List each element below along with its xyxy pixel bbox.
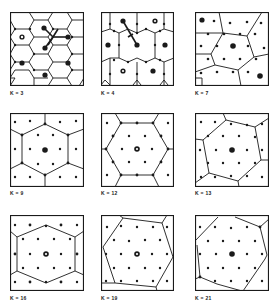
- hexagonal-cell-diagram-k12: [101, 113, 174, 187]
- hexagonal-cell-diagram-k4: [101, 12, 174, 86]
- hexagonal-cell-diagram-k13: [195, 113, 269, 187]
- hexagonal-cell-diagram-k9: [10, 113, 84, 187]
- panel-label: K = 9: [10, 190, 24, 196]
- panel-label: K = 13: [195, 190, 212, 196]
- panel-label: K = 3: [10, 90, 24, 96]
- hexagonal-cell-diagram-k16: [10, 215, 84, 291]
- panel-label: K = 19: [101, 295, 118, 301]
- panel-label: K = 16: [10, 295, 27, 301]
- panel-k16: K = 16: [10, 215, 84, 303]
- panel-k13: K = 13: [195, 113, 269, 199]
- hexagonal-cell-diagram-k7: [195, 12, 269, 86]
- panel-k21: K = 21: [195, 215, 269, 303]
- hexagonal-cell-diagram-k3: [10, 12, 84, 86]
- panel-k4: K = 4: [101, 12, 175, 96]
- panel-k3: K = 3: [10, 12, 84, 96]
- panel-label: K = 12: [101, 190, 118, 196]
- panel-label: K = 7: [195, 90, 209, 96]
- panel-label: K = 21: [195, 295, 212, 301]
- panel-k19: K = 19: [101, 215, 175, 303]
- hexagonal-cell-diagram-k19: [101, 215, 174, 291]
- panel-label: K = 4: [101, 90, 115, 96]
- panel-k12: K = 12: [101, 113, 175, 199]
- hexagonal-cell-diagram-k21: [195, 215, 269, 291]
- panel-k7: K = 7: [195, 12, 269, 96]
- panel-k9: K = 9: [10, 113, 84, 199]
